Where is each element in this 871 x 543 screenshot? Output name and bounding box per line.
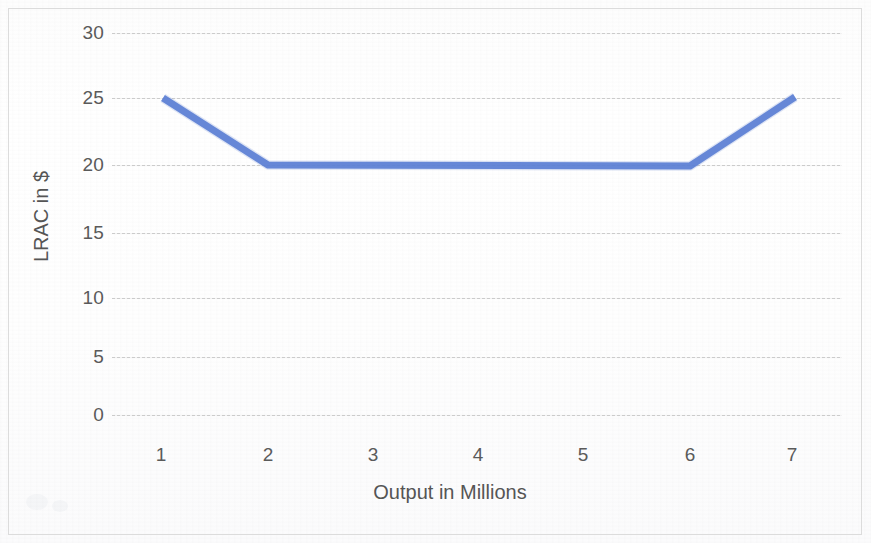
x-tick-label-4: 4 (458, 444, 498, 466)
y-tick-label-30: 30 (50, 22, 104, 44)
gridline-15 (112, 233, 842, 234)
y-tick-label-15: 15 (50, 222, 104, 244)
x-tick-label-7: 7 (772, 444, 812, 466)
scan-smudge (26, 494, 48, 510)
gridline-10 (112, 298, 842, 299)
x-tick-label-2: 2 (248, 444, 288, 466)
x-axis-title: Output in Millions (250, 481, 650, 504)
x-tick-label-6: 6 (670, 444, 710, 466)
gridline-25 (112, 98, 842, 99)
y-tick-label-5: 5 (50, 346, 104, 368)
y-tick-label-10: 10 (50, 287, 104, 309)
x-tick-label-3: 3 (353, 444, 393, 466)
y-axis-title: LRAC in $ (30, 137, 53, 297)
scan-smudge (52, 500, 68, 512)
gridline-30 (112, 33, 842, 34)
x-axis-tick-labels: 1 2 3 4 5 6 7 (0, 444, 871, 478)
y-tick-label-0: 0 (50, 404, 104, 426)
gridline-20 (112, 165, 842, 166)
y-tick-label-25: 25 (50, 87, 104, 109)
gridline-0 (112, 415, 842, 416)
gridline-5 (112, 357, 842, 358)
x-tick-label-5: 5 (563, 444, 603, 466)
x-tick-label-1: 1 (141, 444, 181, 466)
y-tick-label-20: 20 (50, 154, 104, 176)
chart-figure: 30 25 20 15 10 5 0 1 2 3 4 5 6 7 Output … (0, 0, 871, 543)
